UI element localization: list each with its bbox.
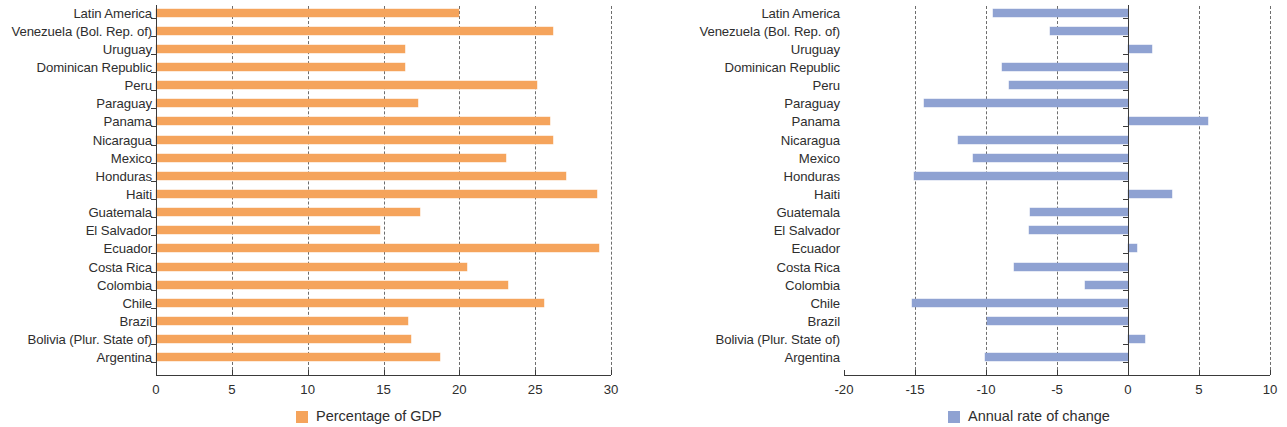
- bar: [1128, 190, 1172, 198]
- bar: [993, 9, 1128, 17]
- category-label: Dominican Republic: [725, 61, 840, 74]
- category-label: Mexico: [799, 152, 840, 165]
- category-axis-labels-left: Latin AmericaVenezuela (Bol. Rep. of)Uru…: [0, 0, 152, 380]
- value-tick-label: 25: [510, 383, 560, 396]
- category-tick: [1123, 163, 1128, 164]
- chart-panel-percentage-of-gdp: Latin AmericaVenezuela (Bol. Rep. of)Uru…: [0, 0, 648, 427]
- legend-swatch-annual-rate-of-change: [948, 411, 960, 423]
- dual-bar-chart-figure: Latin AmericaVenezuela (Bol. Rep. of)Uru…: [0, 0, 1287, 427]
- category-label: Peru: [813, 79, 840, 92]
- category-tick: [151, 199, 156, 200]
- category-label: Ecuador: [104, 242, 152, 255]
- category-label: Mexico: [111, 152, 152, 165]
- value-tick-label: 20: [434, 383, 484, 396]
- category-label: Panama: [791, 115, 840, 128]
- bar: [156, 63, 405, 71]
- bar: [1002, 63, 1128, 71]
- category-axis-line: [156, 5, 157, 375]
- gridline: [611, 6, 612, 375]
- bar: [156, 263, 467, 271]
- value-tick: [844, 370, 845, 375]
- category-tick: [1123, 36, 1128, 37]
- bar: [156, 117, 550, 125]
- bar: [156, 208, 420, 216]
- plot-area-right: -20-15-10-50510: [844, 0, 1280, 380]
- bar: [156, 81, 537, 89]
- category-label: Honduras: [784, 170, 840, 183]
- gridline: [1199, 6, 1200, 375]
- bar: [987, 317, 1128, 325]
- bar: [1029, 226, 1128, 234]
- bar: [156, 9, 459, 17]
- category-tick: [151, 272, 156, 273]
- bar: [156, 172, 566, 180]
- category-label: Chile: [810, 297, 840, 310]
- gridline: [915, 6, 916, 375]
- bar: [156, 99, 418, 107]
- value-tick: [308, 370, 309, 375]
- value-axis-line: [844, 375, 1270, 376]
- category-label: Colombia: [97, 279, 152, 292]
- value-tick: [1057, 370, 1058, 375]
- category-label: Ecuador: [792, 242, 840, 255]
- category-tick: [151, 235, 156, 236]
- category-tick: [1123, 54, 1128, 55]
- value-tick-label: -15: [890, 383, 940, 396]
- category-tick: [151, 253, 156, 254]
- category-label: Uruguay: [791, 43, 840, 56]
- category-tick: [151, 308, 156, 309]
- bar: [914, 172, 1128, 180]
- gridline: [1270, 6, 1271, 375]
- bar: [156, 45, 405, 53]
- category-label: Venezuela (Bol. Rep. of): [11, 25, 152, 38]
- category-tick: [151, 217, 156, 218]
- bar: [156, 353, 440, 361]
- bar: [1030, 208, 1128, 216]
- category-label: Uruguay: [103, 43, 152, 56]
- category-tick: [151, 72, 156, 73]
- value-tick-label: 5: [1174, 383, 1224, 396]
- bar: [985, 353, 1128, 361]
- bar: [958, 136, 1128, 144]
- value-tick: [1199, 370, 1200, 375]
- category-tick: [1123, 18, 1128, 19]
- value-tick-label: 0: [131, 383, 181, 396]
- category-label: Chile: [122, 297, 152, 310]
- value-tick-label: -5: [1032, 383, 1082, 396]
- bar: [1128, 335, 1145, 343]
- category-label: Honduras: [96, 170, 152, 183]
- bar: [156, 27, 553, 35]
- plot-area-left: 051015202530: [156, 0, 616, 380]
- bar: [156, 226, 380, 234]
- category-label: Nicaragua: [781, 134, 840, 147]
- category-label: Guatemala: [776, 206, 840, 219]
- bar: [156, 190, 597, 198]
- category-label: Haiti: [814, 188, 840, 201]
- legend-left: Percentage of GDP: [296, 409, 442, 424]
- category-tick: [151, 18, 156, 19]
- category-tick: [1123, 308, 1128, 309]
- value-tick: [1270, 370, 1271, 375]
- bar: [1128, 117, 1208, 125]
- category-label: Peru: [125, 79, 152, 92]
- category-tick: [1123, 90, 1128, 91]
- category-label: Latin America: [761, 7, 840, 20]
- category-label: Paraguay: [96, 97, 152, 110]
- value-tick-label: 30: [586, 383, 636, 396]
- category-label: Guatemala: [88, 206, 152, 219]
- value-tick: [156, 370, 157, 375]
- category-label: Argentina: [96, 351, 152, 364]
- category-label: El Salvador: [86, 224, 152, 237]
- value-tick-label: 0: [1103, 383, 1153, 396]
- category-tick: [1123, 145, 1128, 146]
- bar: [1128, 244, 1137, 252]
- value-tick: [611, 370, 612, 375]
- value-tick-label: -20: [819, 383, 869, 396]
- category-label: Latin America: [73, 7, 152, 20]
- value-tick-label: 15: [359, 383, 409, 396]
- category-label: Bolivia (Plur. State of): [28, 333, 152, 346]
- legend-right: Annual rate of change: [948, 409, 1110, 424]
- bar: [156, 317, 408, 325]
- category-tick: [151, 126, 156, 127]
- category-tick: [1123, 253, 1128, 254]
